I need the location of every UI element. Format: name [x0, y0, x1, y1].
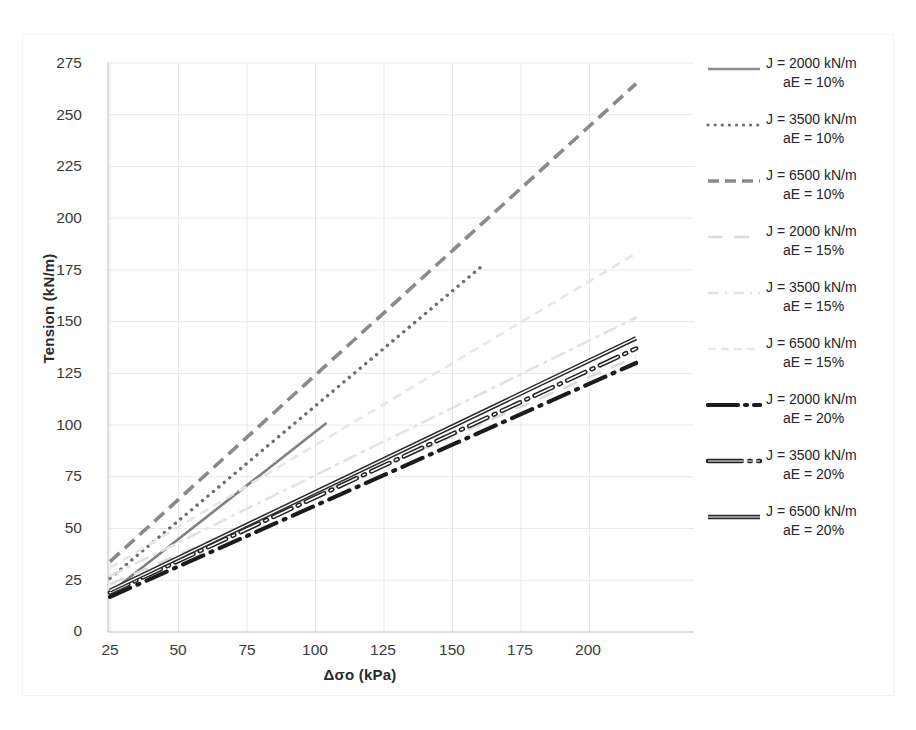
x-tick-25: 25: [85, 641, 135, 659]
legend-label-line2: aE = 10%: [766, 129, 902, 148]
legend-item[interactable]: J = 2000 kN/maE = 10%: [706, 54, 902, 110]
legend-item[interactable]: J = 6500 kN/maE = 20%: [706, 502, 902, 558]
legend-label-line2: aE = 10%: [766, 73, 902, 92]
legend-label-line1: J = 6500 kN/m: [766, 167, 857, 183]
legend-label: J = 2000 kN/maE = 20%: [766, 390, 902, 428]
legend-line-swatch: [706, 173, 762, 185]
y-tick-0: 0: [36, 622, 82, 640]
legend-line-swatch: [706, 453, 762, 465]
legend-label-line2: aE = 15%: [766, 353, 902, 372]
legend-label-line1: J = 6500 kN/m: [766, 335, 857, 351]
legend-label-line2: aE = 15%: [766, 241, 902, 260]
x-tick-200: 200: [563, 641, 613, 659]
legend-label: J = 3500 kN/maE = 10%: [766, 110, 902, 148]
legend-label: J = 2000 kN/maE = 15%: [766, 222, 902, 260]
x-tick-175: 175: [495, 641, 545, 659]
legend-label-line2: aE = 20%: [766, 521, 902, 540]
legend-label: J = 6500 kN/maE = 10%: [766, 166, 902, 204]
legend-item[interactable]: J = 6500 kN/maE = 10%: [706, 166, 902, 222]
y-tick-75: 75: [36, 467, 82, 485]
y-tick-225: 225: [36, 157, 82, 175]
legend-item[interactable]: J = 3500 kN/maE = 20%: [706, 446, 902, 502]
legend-label-line1: J = 2000 kN/m: [766, 55, 857, 71]
x-tick-50: 50: [153, 641, 203, 659]
x-tick-100: 100: [290, 641, 340, 659]
gridlines: [108, 62, 694, 632]
legend-label-line1: J = 6500 kN/m: [766, 503, 857, 519]
legend-label-line1: J = 2000 kN/m: [766, 391, 857, 407]
y-tick-250: 250: [36, 106, 82, 124]
legend-label: J = 2000 kN/maE = 10%: [766, 54, 902, 92]
legend-label-line2: aE = 10%: [766, 185, 902, 204]
axis-lines: [108, 62, 694, 632]
y-axis-title: Tension (kN/m): [40, 224, 57, 394]
legend-line-swatch: [706, 285, 762, 297]
legend-label: J = 6500 kN/maE = 15%: [766, 334, 902, 372]
x-tick-75: 75: [222, 641, 272, 659]
legend-line-swatch: [706, 117, 762, 129]
legend-item[interactable]: J = 3500 kN/maE = 10%: [706, 110, 902, 166]
x-axis-title: Δσo (kPa): [250, 666, 470, 683]
legend-label: J = 6500 kN/maE = 20%: [766, 502, 902, 540]
data-series-group: [110, 84, 636, 597]
legend-item[interactable]: J = 6500 kN/maE = 15%: [706, 334, 902, 390]
legend-label-line1: J = 2000 kN/m: [766, 223, 857, 239]
y-tick-50: 50: [36, 519, 82, 537]
x-tick-125: 125: [358, 641, 408, 659]
legend-line-swatch: [706, 509, 762, 521]
y-tick-25: 25: [36, 571, 82, 589]
legend-item[interactable]: J = 2000 kN/maE = 20%: [706, 390, 902, 446]
legend-line-swatch: [706, 397, 762, 409]
chart-page: 275 250 225 200 175 150 125 100 75 50 25…: [0, 0, 916, 730]
legend-item[interactable]: J = 2000 kN/maE = 15%: [706, 222, 902, 278]
y-tick-275: 275: [36, 54, 82, 72]
legend-label-line1: J = 3500 kN/m: [766, 447, 857, 463]
legend-label-line2: aE = 20%: [766, 465, 902, 484]
legend-label-line2: aE = 15%: [766, 297, 902, 316]
legend-label: J = 3500 kN/maE = 15%: [766, 278, 902, 316]
x-tick-150: 150: [427, 641, 477, 659]
legend-label-line1: J = 3500 kN/m: [766, 111, 857, 127]
chart-legend: J = 2000 kN/maE = 10%J = 3500 kN/maE = 1…: [706, 54, 902, 558]
legend-line-swatch: [706, 341, 762, 353]
legend-label: J = 3500 kN/maE = 20%: [766, 446, 902, 484]
legend-line-swatch: [706, 61, 762, 73]
y-tick-100: 100: [36, 416, 82, 434]
legend-label-line1: J = 3500 kN/m: [766, 279, 857, 295]
legend-item[interactable]: J = 3500 kN/maE = 15%: [706, 278, 902, 334]
legend-label-line2: aE = 20%: [766, 409, 902, 428]
legend-line-swatch: [706, 229, 762, 241]
